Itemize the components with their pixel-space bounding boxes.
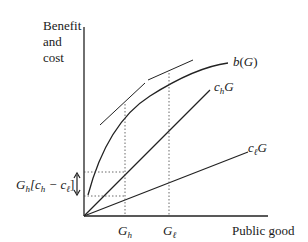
tick-sub: h xyxy=(127,230,132,240)
tick-label-gh: Gh xyxy=(118,224,132,238)
tick-G: G xyxy=(163,223,172,238)
tangent-at-gl xyxy=(148,60,193,80)
y-axis-label-line-3: cost xyxy=(43,50,81,66)
gap-annotation-label: Gh[ch − cℓ] xyxy=(16,178,74,192)
gap-double-arrow-icon xyxy=(74,173,80,195)
cost-line-high-label: chG xyxy=(214,80,234,94)
good-symbol: G xyxy=(258,140,267,155)
x-axis-label: Public good xyxy=(232,224,294,238)
y-axis-label-line-1: Benefit xyxy=(43,18,81,34)
cost-line-low-label: cℓG xyxy=(248,141,267,155)
tick-label-gl: Gℓ xyxy=(163,224,176,238)
gap-open: [c xyxy=(30,177,41,192)
gap-close: ] xyxy=(70,177,74,192)
cost-line-low xyxy=(84,152,248,216)
benefit-curve xyxy=(88,63,228,195)
tick-sub: ℓ xyxy=(172,230,176,240)
benefit-cost-diagram: Benefit and cost b(G) chG cℓG Gh[ch − cℓ… xyxy=(0,0,308,242)
gap-minus: − c xyxy=(45,177,66,192)
benefit-curve-label: b(G) xyxy=(233,55,258,69)
good-symbol: G xyxy=(224,79,233,94)
tick-G: G xyxy=(118,223,127,238)
y-axis-label-line-2: and xyxy=(43,34,81,50)
y-axis-label: Benefit and cost xyxy=(43,18,81,66)
gap-G: G xyxy=(16,177,25,192)
benefit-function-arg: (G) xyxy=(240,54,258,69)
